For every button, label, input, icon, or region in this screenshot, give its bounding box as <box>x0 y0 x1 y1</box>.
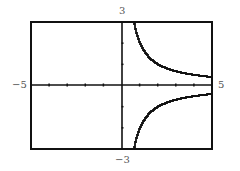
lower-branch-curve <box>123 94 212 149</box>
graph-plot <box>0 0 240 171</box>
upper-branch-curve <box>123 22 212 77</box>
